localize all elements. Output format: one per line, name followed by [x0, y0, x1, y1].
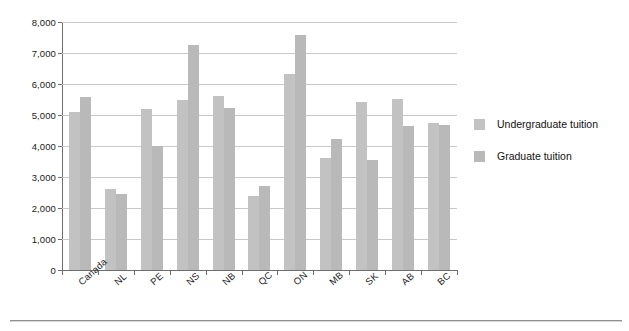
bar-undergraduate[interactable]	[392, 99, 403, 270]
legend-swatch-icon	[474, 119, 485, 130]
footer-divider-shadow	[10, 321, 622, 322]
bar-undergraduate[interactable]	[213, 96, 224, 270]
bar-graduate[interactable]	[259, 186, 270, 270]
legend-item-undergraduate-tuition[interactable]: Undergraduate tuition	[474, 118, 598, 130]
bar-group	[349, 22, 385, 270]
bar-undergraduate[interactable]	[141, 109, 152, 270]
x-axis-tick-label: NS	[184, 270, 201, 287]
bar-group	[62, 22, 98, 270]
x-axis-tick-label: NL	[112, 271, 129, 288]
x-axis-tick-label: AB	[399, 270, 416, 287]
bar-graduate[interactable]	[80, 97, 91, 270]
legend-swatch-icon	[474, 151, 485, 162]
x-axis-tick-mark	[349, 270, 350, 275]
bar-graduate[interactable]	[152, 146, 163, 270]
bar-graduate[interactable]	[188, 45, 199, 270]
bar-group	[242, 22, 278, 270]
x-axis-tick-label: ON	[291, 269, 309, 287]
bar-graduate[interactable]	[367, 160, 378, 270]
x-axis-tick-label: MB	[327, 269, 345, 287]
bar-undergraduate[interactable]	[320, 158, 331, 270]
bar-group	[313, 22, 349, 270]
y-axis-tick-label: 6,000	[0, 79, 56, 90]
y-axis-tick-label: 8,000	[0, 17, 56, 28]
x-axis-tick-mark	[170, 270, 171, 275]
bar-undergraduate[interactable]	[284, 74, 295, 270]
bar-undergraduate[interactable]	[248, 196, 259, 270]
x-axis-tick-mark	[313, 270, 314, 275]
bar-group	[98, 22, 134, 270]
x-axis-tick-mark	[277, 270, 278, 275]
y-axis-tick-label: 4,000	[0, 141, 56, 152]
bar-group	[421, 22, 457, 270]
legend-item-graduate-tuition[interactable]: Graduate tuition	[474, 150, 598, 162]
x-axis-tick-mark	[62, 270, 63, 275]
x-axis-tick-mark	[134, 270, 135, 275]
bar-undergraduate[interactable]	[356, 102, 367, 270]
bar-undergraduate[interactable]	[177, 100, 188, 270]
y-axis-tick-label: 0	[0, 265, 56, 276]
bar-groups	[62, 22, 457, 270]
x-axis-tick-mark	[98, 270, 99, 275]
legend-label: Graduate tuition	[497, 150, 572, 162]
y-axis-labels: 8,0007,0006,0005,0004,0003,0002,0001,000…	[0, 0, 56, 331]
y-axis-tick-label: 2,000	[0, 203, 56, 214]
x-axis-tick-label: PE	[148, 270, 165, 287]
bar-undergraduate[interactable]	[69, 112, 80, 270]
bar-graduate[interactable]	[439, 125, 450, 270]
bar-undergraduate[interactable]	[105, 189, 116, 270]
bar-graduate[interactable]	[224, 108, 235, 270]
bar-graduate[interactable]	[331, 139, 342, 270]
x-axis-tick-mark	[206, 270, 207, 275]
bar-graduate[interactable]	[403, 126, 414, 270]
x-axis-tick-label: SK	[363, 270, 380, 287]
bar-graduate[interactable]	[295, 35, 306, 270]
bar-group	[170, 22, 206, 270]
bar-group	[134, 22, 170, 270]
x-axis-tick-mark	[242, 270, 243, 275]
bar-undergraduate[interactable]	[428, 123, 439, 270]
x-axis-tick-label: QC	[256, 269, 274, 287]
x-axis-tick-label: BC	[435, 270, 452, 287]
x-axis-tick-label: NB	[220, 270, 237, 287]
y-axis-tick-label: 5,000	[0, 110, 56, 121]
chart-figure: 8,0007,0006,0005,0004,0003,0002,0001,000…	[0, 0, 629, 331]
plot-area	[62, 22, 457, 270]
x-axis-tick-mark	[385, 270, 386, 275]
legend-label: Undergraduate tuition	[497, 118, 598, 130]
bar-graduate[interactable]	[116, 194, 127, 270]
x-axis-tick-mark	[457, 270, 458, 275]
bar-group	[277, 22, 313, 270]
bar-group	[385, 22, 421, 270]
chart-legend: Undergraduate tuition Graduate tuition	[474, 118, 598, 182]
y-axis-tick-label: 7,000	[0, 48, 56, 59]
y-axis-tick-label: 3,000	[0, 172, 56, 183]
bar-group	[206, 22, 242, 270]
y-axis-tick-label: 1,000	[0, 234, 56, 245]
x-axis-tick-mark	[421, 270, 422, 275]
